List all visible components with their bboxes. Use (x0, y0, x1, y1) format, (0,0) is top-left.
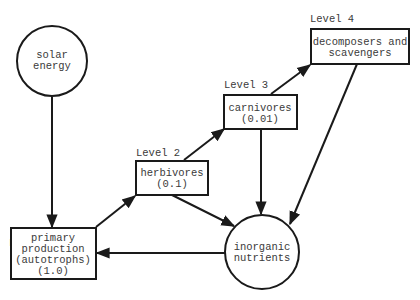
node-text: nutrients (234, 252, 291, 264)
node-carnivores: carnivores (0.01) (224, 95, 297, 129)
node-text: (1.0) (37, 265, 69, 277)
node-herbivores: herbivores (0.1) (136, 161, 208, 195)
level-2-label: Level 2 (136, 147, 180, 159)
edge-herbivores-to-carnivores (184, 129, 224, 160)
edge-carnivores-to-decomposers (271, 65, 310, 94)
level-3-label: Level 3 (224, 79, 268, 91)
edge-decomposers-to-inorganic (290, 64, 357, 224)
node-text: energy (33, 60, 71, 72)
edges (52, 64, 357, 253)
node-text: (0.01) (241, 113, 279, 125)
node-text: scavengers (328, 47, 391, 59)
node-primary-production: primary production (autotrophs) (1.0) (11, 228, 96, 279)
food-chain-diagram: solar energy Level 1 primary production … (0, 0, 420, 300)
node-inorganic-nutrients: inorganic nutrients (225, 215, 299, 289)
edge-herbivores-to-inorganic (172, 195, 234, 226)
node-decomposers: decomposers and scavengers (311, 29, 409, 64)
level-4-label: Level 4 (310, 13, 354, 25)
node-text: (0.1) (156, 178, 188, 190)
edge-primary-to-herbivores (96, 196, 135, 227)
node-solar-energy: solar energy (17, 26, 87, 96)
